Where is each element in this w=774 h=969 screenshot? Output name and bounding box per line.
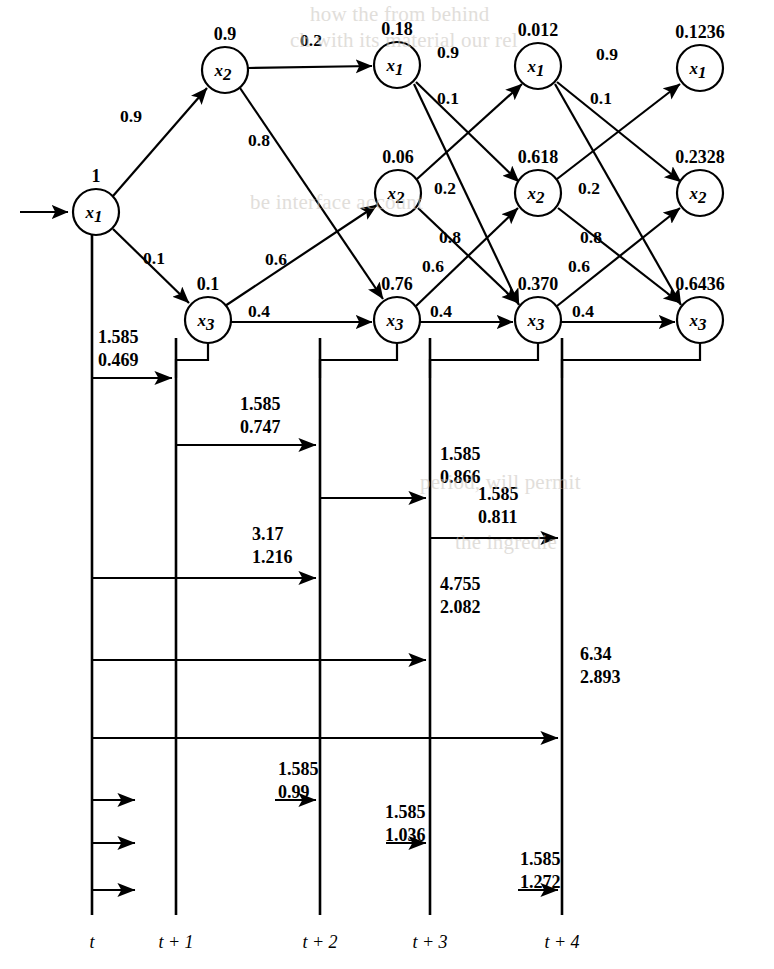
weight-x3t2-x2t3: 0.6 xyxy=(422,256,444,276)
bleed-text-line-1: how the from behind xyxy=(310,2,489,27)
diagram-canvas: x11x20.9x30.1x10.18x20.06x30.76x10.012x2… xyxy=(0,0,774,969)
node-x1-t4[interactable]: x10.1236 xyxy=(675,22,725,91)
weight-x2t1-x3t2: 0.8 xyxy=(248,130,270,150)
flow-label-t1-t2: 1.5850.747 xyxy=(240,394,281,437)
flow-capacity: 1.585 xyxy=(440,444,481,464)
axis-label-t1: t + 1 xyxy=(158,932,193,952)
flow-value: 0.99 xyxy=(278,782,310,802)
flow-label-short-t3: 1.5851.036 xyxy=(385,802,426,845)
weight-x3t3-x2t4: 0.6 xyxy=(568,256,590,276)
flow-label-t-t1: 1.5850.469 xyxy=(98,327,139,370)
node-x1-t3[interactable]: x10.012 xyxy=(515,20,561,89)
flow-value: 2.893 xyxy=(580,667,621,687)
node-value: 0.618 xyxy=(518,147,559,167)
flow-arrows xyxy=(92,378,558,890)
node-value: 0.9 xyxy=(214,24,237,44)
node-value: 0.1236 xyxy=(675,22,725,42)
node-value: 0.012 xyxy=(518,20,559,40)
flow-value: 0.469 xyxy=(98,350,139,370)
node-value: 0.6436 xyxy=(675,274,725,294)
connector-x3t2 xyxy=(320,343,397,378)
weight-x1t-x2t1: 0.9 xyxy=(120,106,142,126)
edge-x1t-x2t1 xyxy=(113,88,207,196)
flow-value: 1.272 xyxy=(520,872,561,892)
weight-x1t3-x1t4: 0.9 xyxy=(596,44,618,64)
axis-label-t2: t + 2 xyxy=(302,932,337,952)
flow-value: 1.036 xyxy=(385,825,426,845)
node-x1-t[interactable]: x11 xyxy=(73,166,119,235)
time-rails xyxy=(92,230,562,915)
weight-x2t2-x1t3: 0.2 xyxy=(434,178,456,198)
bleed-text-line-4: period, will permit xyxy=(420,470,581,495)
node-x3-t4[interactable]: x30.6436 xyxy=(675,274,725,343)
flow-label-t-t4: 6.342.893 xyxy=(580,644,621,687)
node-x3-t2[interactable]: x30.76 xyxy=(374,274,420,343)
weight-x1t2-x2t3: 0.1 xyxy=(437,88,459,108)
bleed-text-line-2: ch with its material our rel xyxy=(290,28,518,53)
node-value: 0.370 xyxy=(518,274,559,294)
bleed-text-line-5: the ingredie xyxy=(455,530,557,555)
time-expanded-network-diagram: x11x20.9x30.1x10.18x20.06x30.76x10.012x2… xyxy=(0,0,774,969)
bleed-text-line-3: be interface account xyxy=(250,190,423,215)
node-x2-t1[interactable]: x20.9 xyxy=(202,24,248,93)
weight-x2t2-x3t3: 0.8 xyxy=(439,227,461,247)
axis-label-t: t xyxy=(89,932,95,952)
weight-x3t1-x3t2: 0.4 xyxy=(248,301,270,321)
flow-capacity: 3.17 xyxy=(252,524,284,544)
axis-label-t3: t + 3 xyxy=(412,932,447,952)
flow-label-short-t4: 1.5851.272 xyxy=(520,849,561,892)
node-value: 0.1 xyxy=(197,274,220,294)
flow-capacity: 6.34 xyxy=(580,644,612,664)
weight-x3t3-x3t4: 0.4 xyxy=(572,301,594,321)
time-axis-labels: tt + 1t + 2t + 3t + 4 xyxy=(89,932,579,952)
weight-x2t3-x3t4: 0.8 xyxy=(580,227,602,247)
flow-value: 0.747 xyxy=(240,417,281,437)
flow-capacity: 1.585 xyxy=(98,327,139,347)
node-value: 1 xyxy=(92,166,101,186)
node-x2-t3[interactable]: x20.618 xyxy=(515,147,561,216)
flow-value: 2.082 xyxy=(440,597,481,617)
flow-capacity: 1.585 xyxy=(385,802,426,822)
weight-x1t3-x2t4: 0.1 xyxy=(590,88,612,108)
axis-label-t4: t + 4 xyxy=(544,932,579,952)
node-x3-t3[interactable]: x30.370 xyxy=(515,274,561,343)
node-rail-connectors xyxy=(176,343,700,378)
weight-x3t1-x2t2: 0.6 xyxy=(265,249,287,269)
node-value: 0.2328 xyxy=(675,147,725,167)
flow-value: 0.811 xyxy=(478,507,518,527)
node-x2-t4[interactable]: x20.2328 xyxy=(675,147,725,216)
flow-capacity: 1.585 xyxy=(520,849,561,869)
flow-label-t-t3: 4.7552.082 xyxy=(440,574,481,617)
connector-x3t4 xyxy=(562,343,700,378)
node-value: 0.76 xyxy=(381,274,413,294)
flow-capacity: 4.755 xyxy=(440,574,481,594)
flow-label-short-t2: 1.5850.99 xyxy=(278,759,319,802)
node-x3-t1[interactable]: x30.1 xyxy=(185,274,231,343)
edge-x2t1-x1t2 xyxy=(248,66,372,68)
connector-x3t1 xyxy=(176,343,208,378)
weight-x3t2-x3t3: 0.4 xyxy=(430,301,452,321)
weight-x2t3-x1t4: 0.2 xyxy=(578,178,600,198)
connector-x3t3 xyxy=(430,343,538,378)
flow-value: 1.216 xyxy=(252,547,293,567)
weight-x1t-x3t1: 0.1 xyxy=(143,248,165,268)
flow-label-t-t2: 3.171.216 xyxy=(252,524,293,567)
nodes-layer: x11x20.9x30.1x10.18x20.06x30.76x10.012x2… xyxy=(73,19,725,343)
flow-capacity: 1.585 xyxy=(278,759,319,779)
flow-capacity: 1.585 xyxy=(240,394,281,414)
node-value: 0.06 xyxy=(382,147,414,167)
